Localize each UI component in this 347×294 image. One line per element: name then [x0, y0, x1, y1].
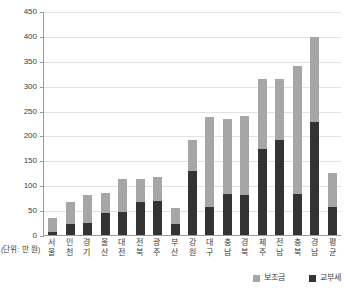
bar-segment-tax[interactable] [118, 212, 127, 235]
bar-segment-grant[interactable] [188, 140, 197, 171]
legend-label: 보조금 [264, 274, 285, 282]
bar-column-평균[interactable] [324, 12, 341, 235]
bar-segment-tax[interactable] [223, 194, 232, 235]
bar-stack[interactable] [258, 79, 267, 235]
bar-stack[interactable] [293, 66, 302, 235]
bar-segment-grant[interactable] [258, 79, 267, 150]
x-tick-label-충북: 충북 [288, 238, 306, 272]
bar-segment-tax[interactable] [205, 207, 214, 235]
x-tick-label-충남: 충남 [218, 238, 236, 272]
bar-column-부산[interactable] [166, 12, 183, 235]
x-tick-label-경북: 경북 [236, 238, 254, 272]
bar-column-경기[interactable] [79, 12, 96, 235]
bar-segment-grant[interactable] [240, 116, 249, 196]
bar-stack[interactable] [275, 79, 284, 235]
bar-segment-grant[interactable] [310, 37, 319, 122]
y-tick-label-0: 0 [33, 232, 37, 240]
bar-column-울산[interactable] [96, 12, 113, 235]
bar-column-서울[interactable] [44, 12, 61, 235]
bar-column-경남[interactable] [306, 12, 323, 235]
bar-segment-tax[interactable] [310, 122, 319, 235]
bar-column-인천[interactable] [61, 12, 78, 235]
bar-column-대구[interactable] [201, 12, 218, 235]
bar-segment-tax[interactable] [101, 213, 110, 235]
bar-segment-tax[interactable] [275, 140, 284, 235]
bar-column-경북[interactable] [236, 12, 253, 235]
bar-segment-grant[interactable] [171, 208, 180, 224]
bar-segment-tax[interactable] [66, 224, 75, 235]
y-tick-label-250: 250 [24, 108, 37, 116]
bar-segment-tax[interactable] [83, 223, 92, 235]
x-tick-label-경남: 경남 [306, 238, 324, 272]
bar-segment-grant[interactable] [136, 179, 145, 202]
bar-segment-grant[interactable] [101, 193, 110, 213]
bar-column-전남[interactable] [271, 12, 288, 235]
bar-segment-tax[interactable] [328, 207, 337, 235]
bar-segment-grant[interactable] [153, 177, 162, 201]
bar-stack[interactable] [118, 179, 127, 235]
y-tick-mark-0 [40, 236, 44, 237]
bar-stack[interactable] [205, 117, 214, 235]
bar-segment-grant[interactable] [66, 202, 75, 224]
bar-stack[interactable] [136, 179, 145, 235]
x-tick-label-서울: 서울 [43, 238, 61, 272]
bar-stack[interactable] [223, 119, 232, 235]
bar-segment-tax[interactable] [258, 149, 267, 235]
bar-segment-tax[interactable] [293, 194, 302, 235]
x-tick-label-광주: 광주 [148, 238, 166, 272]
y-tick-label-50: 50 [28, 207, 37, 215]
legend-item-보조금[interactable]: 보조금 [253, 274, 285, 282]
bar-column-제주[interactable] [254, 12, 271, 235]
bar-segment-grant[interactable] [118, 179, 127, 212]
bar-segment-tax[interactable] [48, 232, 57, 235]
legend-label: 교부세 [320, 274, 341, 282]
bar-stack[interactable] [48, 218, 57, 235]
bar-stack[interactable] [310, 37, 319, 235]
bar-column-충북[interactable] [289, 12, 306, 235]
y-tick-label-150: 150 [24, 157, 37, 165]
bar-stack[interactable] [188, 140, 197, 235]
legend-swatch-tax [309, 275, 316, 282]
bar-segment-grant[interactable] [48, 218, 57, 232]
chart-legend: 보조금교부세 [0, 274, 341, 282]
bar-segment-grant[interactable] [83, 195, 92, 223]
bar-stack[interactable] [83, 195, 92, 235]
bar-stack[interactable] [240, 116, 249, 235]
y-axis-labels: 050100150200250300350400450 [0, 0, 41, 236]
bar-column-강원[interactable] [184, 12, 201, 235]
bar-segment-grant[interactable] [275, 79, 284, 141]
bar-segment-grant[interactable] [205, 117, 214, 208]
unit-caption: (단위: 만 원) [1, 243, 40, 254]
bar-segment-grant[interactable] [293, 66, 302, 194]
x-tick-label-평균: 평균 [324, 238, 342, 272]
bar-segment-grant[interactable] [223, 119, 232, 195]
y-tick-label-400: 400 [24, 33, 37, 41]
y-tick-label-300: 300 [24, 83, 37, 91]
bar-column-광주[interactable] [149, 12, 166, 235]
x-tick-label-경기: 경기 [78, 238, 96, 272]
bar-segment-tax[interactable] [136, 202, 145, 235]
bar-segment-tax[interactable] [171, 224, 180, 235]
bar-stack[interactable] [171, 208, 180, 235]
x-axis-labels: 서울인천경기울산대전전북광주부산강원대구충남경북제주전남충북경남평균 [43, 238, 341, 272]
bar-column-전북[interactable] [131, 12, 148, 235]
bar-segment-grant[interactable] [328, 173, 337, 207]
y-tick-label-450: 450 [24, 8, 37, 16]
bar-segment-tax[interactable] [188, 171, 197, 235]
bar-column-대전[interactable] [114, 12, 131, 235]
x-tick-label-대전: 대전 [113, 238, 131, 272]
x-tick-label-강원: 강원 [183, 238, 201, 272]
bar-stack[interactable] [101, 193, 110, 235]
bar-stack[interactable] [66, 202, 75, 235]
plot-area [43, 12, 341, 236]
bar-segment-tax[interactable] [153, 201, 162, 235]
bar-segment-tax[interactable] [240, 195, 249, 235]
legend-item-교부세[interactable]: 교부세 [309, 274, 341, 282]
x-tick-label-전남: 전남 [271, 238, 289, 272]
x-tick-label-전북: 전북 [131, 238, 149, 272]
bar-stack[interactable] [328, 173, 337, 235]
bar-column-충남[interactable] [219, 12, 236, 235]
x-tick-label-인천: 인천 [61, 238, 79, 272]
bar-stack[interactable] [153, 177, 162, 235]
y-tick-label-350: 350 [24, 58, 37, 66]
